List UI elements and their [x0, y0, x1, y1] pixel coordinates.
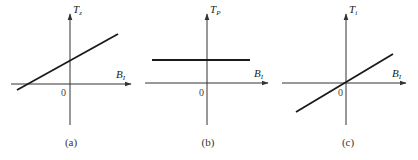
y-axis-label-c: Ti [349, 4, 357, 17]
y-axis-label-a: Tz [73, 4, 82, 17]
x-axis-label-a: BI [116, 69, 125, 82]
caption-a: (a) [65, 137, 77, 148]
caption-b: (b) [202, 137, 215, 148]
panel-a [11, 14, 131, 125]
panel-b [145, 14, 268, 125]
curve-a [17, 34, 118, 90]
y-axis-label-b: TP [210, 4, 220, 17]
caption-c: (c) [342, 137, 354, 148]
origin-label-c: 0 [338, 88, 343, 98]
origin-label-b: 0 [199, 88, 204, 98]
x-axis-label-c: BI [392, 68, 401, 81]
panel-c [282, 14, 406, 125]
x-axis-label-b: BI [254, 68, 263, 81]
origin-label-a: 0 [61, 88, 66, 98]
